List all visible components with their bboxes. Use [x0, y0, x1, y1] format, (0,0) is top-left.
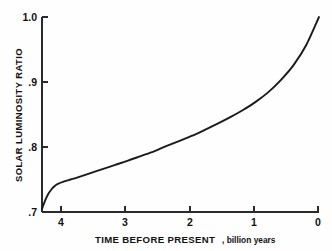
y-tick-label-0.7: .7 — [28, 206, 37, 218]
y-tick-label-0.9: .9 — [28, 76, 37, 88]
y-tick-label-1.0: 1.0 — [22, 11, 37, 23]
x-axis-title-sub: , billion years — [222, 235, 276, 245]
y-tick-label-0.8: .8 — [28, 141, 37, 153]
x-tick-label-3: 3 — [122, 216, 128, 228]
solar-luminosity-line-chart: 1.0 .9 .8 .7 4 3 2 1 0 TIME BEFORE PRESE… — [0, 0, 332, 251]
luminosity-curve — [42, 17, 319, 209]
x-axis-ticks — [61, 206, 318, 212]
x-tick-label-2: 2 — [187, 216, 193, 228]
x-tick-label-0: 0 — [315, 216, 321, 228]
chart-figure: 1.0 .9 .8 .7 4 3 2 1 0 TIME BEFORE PRESE… — [0, 0, 332, 251]
y-axis-title: SOLAR LUMINOSITY RATIO — [13, 48, 24, 182]
x-tick-label-1: 1 — [251, 216, 257, 228]
x-tick-label-4: 4 — [58, 216, 64, 228]
x-axis-title-main: TIME BEFORE PRESENT — [95, 234, 215, 245]
y-axis-ticks — [42, 17, 48, 212]
